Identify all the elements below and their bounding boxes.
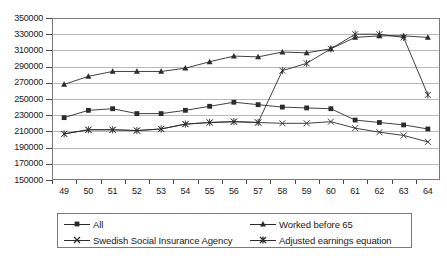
y-axis-tick-label: 230000 xyxy=(14,111,43,120)
x-axis-tick-mark xyxy=(125,180,126,184)
series-line xyxy=(64,102,428,129)
data-point-square xyxy=(86,108,91,113)
x-axis-tick-mark xyxy=(416,180,417,184)
x-axis-tick-label: 49 xyxy=(51,186,77,196)
data-series-layer xyxy=(52,18,440,180)
data-point-square xyxy=(159,111,164,116)
x-axis-tick-mark xyxy=(319,180,320,184)
x-axis-tick-label: 54 xyxy=(172,186,198,196)
legend-label: Worked before 65 xyxy=(276,219,353,230)
y-axis-tick-label: 310000 xyxy=(14,46,43,55)
legend-label: Adjusted earnings equation xyxy=(276,235,392,246)
data-point-square xyxy=(304,106,309,111)
data-point-asterisk xyxy=(425,91,431,98)
x-axis-tick-mark xyxy=(52,180,53,184)
x-axis-tick-label: 61 xyxy=(342,186,368,196)
x-axis-tick-mark xyxy=(101,180,102,184)
x-axis-tick-mark xyxy=(149,180,150,184)
x-axis-tick-label: 62 xyxy=(366,186,392,196)
legend-item[interactable]: Worked before 65 xyxy=(250,216,353,232)
series-all xyxy=(62,100,431,132)
x-axis-tick-label: 63 xyxy=(391,186,417,196)
data-point-triangle xyxy=(260,221,266,227)
x-axis-tick-mark xyxy=(76,180,77,184)
x-axis-tick-label: 57 xyxy=(245,186,271,196)
series-line xyxy=(64,36,428,85)
y-axis-tick-label: 350000 xyxy=(14,14,43,23)
series-line xyxy=(64,122,428,142)
data-point-cross xyxy=(425,139,431,145)
x-axis-tick-label: 60 xyxy=(318,186,344,196)
data-point-square xyxy=(280,105,285,110)
data-point-square xyxy=(256,102,261,107)
data-point-square xyxy=(183,108,188,113)
series-adjusted-earnings-equation xyxy=(61,31,431,138)
data-point-square xyxy=(353,118,358,123)
x-axis-tick-mark xyxy=(392,180,393,184)
data-point-square xyxy=(328,106,333,111)
legend-marker-square-icon xyxy=(64,218,90,230)
legend-marker-cross-icon xyxy=(64,234,90,246)
data-point-square xyxy=(207,104,212,109)
series-swedish-social-insurance-agency xyxy=(61,119,431,145)
x-axis-tick-label: 55 xyxy=(197,186,223,196)
data-point-square xyxy=(401,123,406,128)
data-point-asterisk xyxy=(279,67,285,74)
data-point-square xyxy=(75,222,80,227)
data-point-cross xyxy=(74,237,80,243)
y-axis-tick-label: 170000 xyxy=(14,159,43,168)
series-line xyxy=(64,34,428,134)
chart-figure: 3500003300003100002900002700002500002300… xyxy=(0,0,447,258)
data-point-square xyxy=(377,120,382,125)
series-worked-before-65 xyxy=(61,33,431,87)
legend-item[interactable]: All xyxy=(64,216,103,232)
data-point-square xyxy=(231,100,236,105)
y-axis-tick-label: 250000 xyxy=(14,95,43,104)
x-axis-tick-mark xyxy=(295,180,296,184)
x-axis-tick-mark xyxy=(222,180,223,184)
y-axis-tick-label: 270000 xyxy=(14,78,43,87)
x-axis-tick-mark xyxy=(246,180,247,184)
y-axis-tick-label: 150000 xyxy=(14,176,43,185)
y-axis-tick-label: 210000 xyxy=(14,127,43,136)
x-axis-tick-label: 50 xyxy=(75,186,101,196)
x-axis-tick-label: 53 xyxy=(148,186,174,196)
legend-item[interactable]: Swedish Social Insurance Agency xyxy=(64,232,232,248)
data-point-square xyxy=(62,115,67,120)
data-point-square xyxy=(134,111,139,116)
y-axis: 3500003300003100002900002700002500002300… xyxy=(0,0,52,200)
legend-item[interactable]: Adjusted earnings equation xyxy=(250,232,392,248)
x-axis-tick-label: 56 xyxy=(221,186,247,196)
x-axis-tick-label: 64 xyxy=(415,186,441,196)
chart-legend: AllWorked before 65Swedish Social Insura… xyxy=(57,213,412,248)
legend-label: All xyxy=(90,219,103,230)
x-axis-tick-label: 52 xyxy=(124,186,150,196)
data-point-square xyxy=(425,127,430,132)
x-axis-tick-mark xyxy=(173,180,174,184)
x-axis-tick-mark xyxy=(270,180,271,184)
x-axis-tick-mark xyxy=(198,180,199,184)
x-axis-tick-label: 58 xyxy=(269,186,295,196)
legend-marker-triangle-icon xyxy=(250,218,276,230)
x-axis-tick-label: 51 xyxy=(100,186,126,196)
y-axis-tick-label: 190000 xyxy=(14,143,43,152)
legend-label: Swedish Social Insurance Agency xyxy=(90,235,232,246)
y-axis-tick-label: 330000 xyxy=(14,30,43,39)
data-point-square xyxy=(110,106,115,111)
data-point-asterisk xyxy=(260,236,266,243)
data-point-asterisk xyxy=(304,60,310,67)
y-axis-tick-label: 290000 xyxy=(14,62,43,71)
x-axis-tick-mark xyxy=(343,180,344,184)
x-axis-tick-mark xyxy=(367,180,368,184)
x-axis-tick-label: 59 xyxy=(294,186,320,196)
legend-marker-asterisk-icon xyxy=(250,234,276,246)
